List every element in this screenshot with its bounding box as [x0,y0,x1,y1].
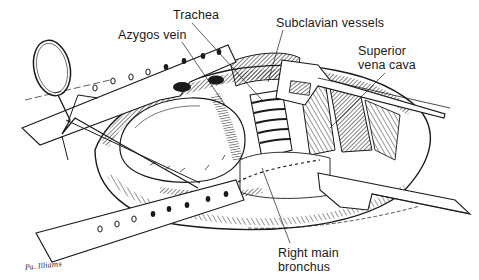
label-trachea: Trachea [173,8,219,22]
label-azygos-vein: Azygos vein [118,28,187,42]
label-subclavian-vessels: Subclavian vessels [276,16,384,30]
surgical-illustration [0,0,479,280]
label-right-main-bronchus-2: bronchus [278,260,330,274]
label-superior-vena-cava-1: Superior [358,44,406,58]
label-right-main-bronchus-1: Right main [278,246,339,260]
label-superior-vena-cava-2: vena cava [358,58,416,72]
